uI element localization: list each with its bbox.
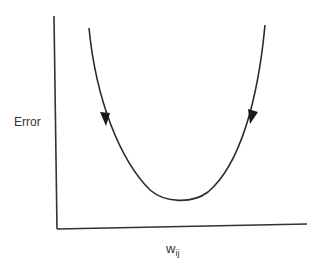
x-axis-label-main: w	[166, 241, 175, 256]
x-axis-label-subscript: ij	[175, 248, 179, 258]
y-axis-label: Error	[14, 115, 41, 129]
error-curve	[89, 25, 265, 200]
x-axis	[57, 224, 307, 229]
arrow-down-icon	[248, 109, 258, 124]
y-axis	[54, 16, 57, 229]
error-curve-diagram	[0, 0, 321, 272]
x-axis-label: wij	[166, 241, 179, 258]
